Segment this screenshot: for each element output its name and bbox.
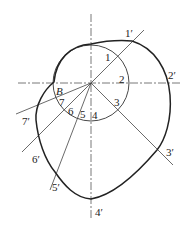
label-4: 4 [92,109,98,121]
label-5-prime: 5′ [52,181,60,193]
ray-3 [91,83,173,165]
label-3-prime: 3′ [166,146,174,158]
label-2: 2 [119,73,125,85]
ray-1 [91,30,144,83]
label-1-prime: 1′ [125,27,133,39]
label-6: 6 [68,105,74,117]
label-4-prime: 4′ [95,206,103,218]
label-7-prime: 7′ [22,115,30,127]
label-5: 5 [80,108,86,120]
label-2-prime: 2′ [168,69,176,81]
label-3: 3 [114,96,120,108]
cam-diagram: B 1 2 3 4 5 6 7 1′ 2′ 3′ 4′ 5′ 6′ 7′ [0,0,193,228]
cam-profile [36,41,170,199]
label-7: 7 [59,96,65,108]
label-1: 1 [105,51,111,63]
label-6-prime: 6′ [32,153,40,165]
